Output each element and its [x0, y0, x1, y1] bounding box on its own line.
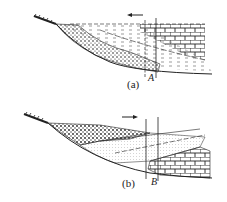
well-label-a: A — [148, 72, 154, 83]
arrow-left-icon — [127, 13, 143, 17]
arrow-right-icon — [122, 115, 138, 119]
caption-a: (a) — [127, 78, 139, 90]
cross-section-b — [0, 101, 227, 202]
cross-section-a — [0, 0, 227, 101]
panel-b: (b) B — [0, 101, 227, 202]
well-label-b: B — [151, 176, 157, 187]
ground-hatch-b — [24, 112, 48, 123]
caption-b: (b) — [122, 177, 135, 189]
ground-hatch-a — [34, 14, 56, 24]
panel-a: (a) A — [0, 0, 227, 101]
